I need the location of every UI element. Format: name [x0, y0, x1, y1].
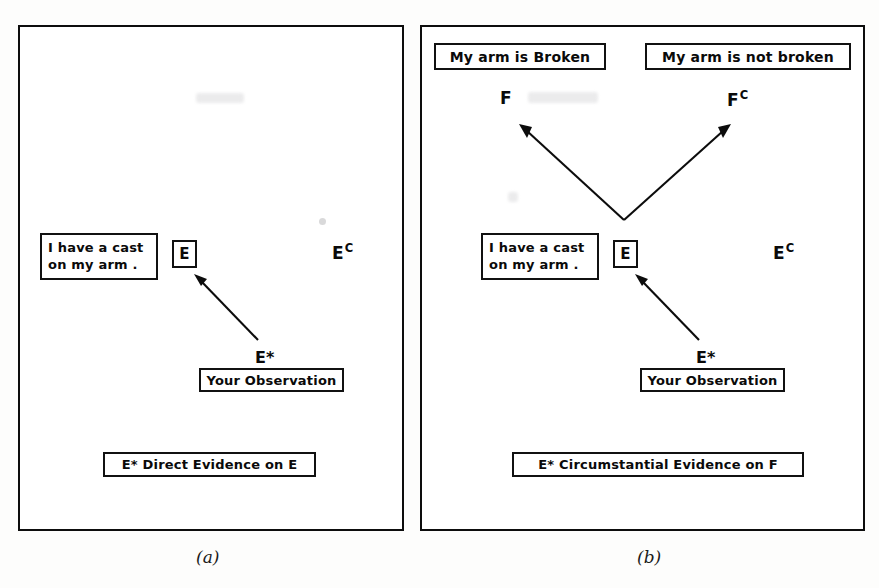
panel-b-complement-event-label: EC	[773, 241, 794, 263]
panel-b-observation-box: Your Observation	[640, 368, 785, 392]
panel-b-evidence-line-1: I have a cast	[489, 240, 585, 256]
panel-a-observation-box: Your Observation	[199, 368, 344, 392]
panel-b-hypothesis-true-symbol: F	[500, 88, 512, 108]
panel-b-hypothesis-false-superscript: C	[740, 88, 748, 102]
panel-a-footer-box: E* Direct Evidence on E	[103, 452, 316, 477]
panel-b-hypothesis-true-label: My arm is Broken	[450, 49, 591, 65]
panel-b-hypothesis-true-box: My arm is Broken	[434, 43, 606, 70]
scan-artifact-smudge-b	[528, 92, 598, 103]
scan-artifact-smudge-c	[508, 192, 518, 202]
panel-b-event-e-label: E	[620, 245, 630, 263]
panel-b-hypothesis-false-label: My arm is not broken	[662, 49, 834, 65]
panel-b-event-e-box: E	[613, 240, 638, 268]
panel-b-footer-label: E* Circumstantial Evidence on F	[538, 457, 778, 472]
panel-a-complement-event-label: EC	[332, 241, 353, 263]
panel-a-evidence-statement-box: I have a cast on my arm .	[40, 233, 158, 280]
panel-a-footer-label: E* Direct Evidence on E	[122, 457, 298, 472]
panel-a-caption: (a)	[196, 547, 219, 567]
panel-a-event-e-box: E	[172, 240, 197, 268]
panel-a-observation-symbol: E*	[255, 348, 274, 367]
scan-artifact-dot	[319, 218, 326, 225]
panel-b-observation-label: Your Observation	[648, 373, 778, 388]
panel-a-complement-event-superscript: C	[345, 241, 353, 255]
panel-a-event-e-label: E	[179, 245, 189, 263]
panel-b-hypothesis-false-symbol: FC	[727, 88, 748, 110]
panel-b-footer-box: E* Circumstantial Evidence on F	[512, 452, 804, 477]
panel-b-evidence-statement-box: I have a cast on my arm .	[481, 233, 599, 280]
panel-a-complement-event-base: E	[332, 243, 344, 263]
panel-b-complement-event-base: E	[773, 243, 785, 263]
panel-a-evidence-line-1: I have a cast	[48, 240, 144, 256]
figure-root: I have a cast on my arm . E EC E* Your O…	[0, 0, 879, 588]
panel-a-evidence-line-2: on my arm .	[48, 257, 138, 273]
panel-a-observation-label: Your Observation	[207, 373, 337, 388]
panel-b-observation-symbol: E*	[696, 348, 715, 367]
panel-b-caption: (b)	[637, 547, 661, 567]
panel-b-complement-event-superscript: C	[786, 241, 794, 255]
panel-b-hypothesis-false-symbol-base: F	[727, 90, 739, 110]
scan-artifact-smudge-a	[196, 93, 244, 103]
panel-b-hypothesis-false-box: My arm is not broken	[645, 43, 851, 70]
panel-b-evidence-line-2: on my arm .	[489, 257, 579, 273]
